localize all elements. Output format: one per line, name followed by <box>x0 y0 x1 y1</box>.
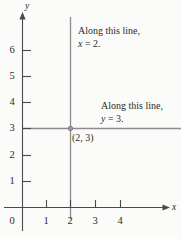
vertical-line-annotation-value: 2. <box>93 38 101 49</box>
vertical-line-annotation-operator: = <box>82 38 93 49</box>
intersection-point-label: (2, 3) <box>72 133 94 143</box>
vertical-line-annotation-equation: x = 2. <box>78 37 140 50</box>
vertical-line-annotation-line1: Along this line, <box>78 24 140 37</box>
horizontal-line-annotation-line1: Along this line, <box>101 99 163 112</box>
y-tick-label-5: 5 <box>6 71 18 82</box>
horizontal-line-annotation-operator: = <box>105 113 116 124</box>
y-tick-label-2: 2 <box>6 150 18 161</box>
y-axis-arrowhead <box>19 12 25 20</box>
intersection-point-marker <box>68 126 72 130</box>
y-tick-label-3: 3 <box>6 123 18 134</box>
horizontal-line-annotation-equation: y = 3. <box>101 112 163 125</box>
horizontal-line-annotation-value: 3. <box>116 113 124 124</box>
vertical-line-annotation: Along this line, x = 2. <box>78 24 140 50</box>
horizontal-line-annotation: Along this line, y = 3. <box>101 99 163 125</box>
y-tick-label-1: 1 <box>6 176 18 187</box>
x-tick-label-2: 2 <box>64 216 76 227</box>
x-tick-label-3: 3 <box>89 216 101 227</box>
x-axis-label: x <box>172 203 176 213</box>
x-tick-label-1: 1 <box>40 216 52 227</box>
y-tick-label-6: 6 <box>6 45 18 56</box>
x-tick-label-4: 4 <box>114 216 126 227</box>
y-tick-label-4: 4 <box>6 97 18 108</box>
origin-label-0: 0 <box>6 216 18 227</box>
y-axis-label: y <box>25 2 29 12</box>
coordinate-plane-figure: y x 6 5 4 3 2 1 0 1 2 3 4 Along this lin… <box>0 0 181 239</box>
x-axis-arrowhead <box>163 204 171 210</box>
